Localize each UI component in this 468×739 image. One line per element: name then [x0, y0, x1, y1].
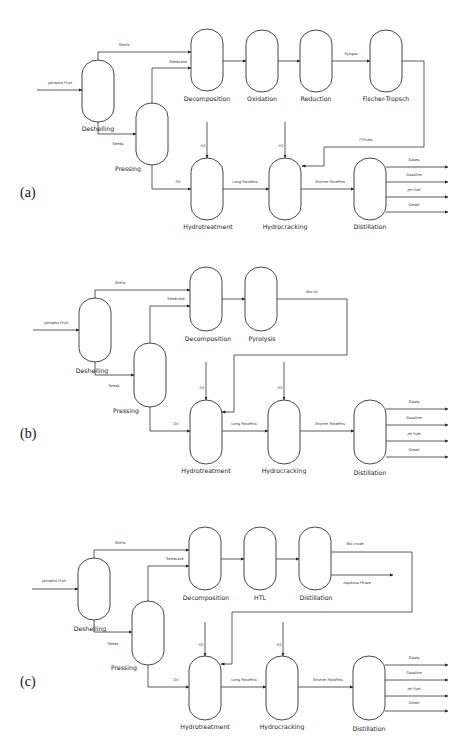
product-label-gases: Gases: [409, 400, 420, 404]
seedcake-label: Seedcake: [166, 557, 184, 561]
seedcake-label: Seedcake: [169, 60, 187, 64]
decomposition-label: Decomposition: [185, 335, 231, 343]
seeds-label: Seeds: [113, 142, 124, 146]
bio-oil-stream: [222, 299, 347, 412]
ft-fuels-label: FTFuels: [359, 138, 373, 142]
distillation-1-label: Distillation: [300, 594, 333, 601]
product-label-jet-fuel: Jet Fuel: [406, 432, 420, 436]
decomposition-label: Decomposition: [184, 95, 230, 103]
long-paraffins-label: Long Paraffins: [231, 678, 256, 682]
hydrotreatment-label: Hydrotreatment: [183, 223, 233, 231]
shells-label: Shells: [115, 541, 126, 545]
panel-label-b: (b): [20, 426, 37, 442]
fischer-tropsch-label: Fischer-Tropsch: [363, 95, 410, 103]
distillation-label: Distillation: [354, 469, 387, 476]
oil-label: Oil: [174, 678, 179, 682]
shorter-paraffins-label: Shorter Paraffins: [315, 422, 345, 426]
panel-label-a: (a): [20, 185, 36, 201]
product-label-diesel: Diesel: [408, 203, 419, 207]
distillation-label: Distillation: [353, 725, 386, 732]
pressing-label: Pressing: [111, 664, 137, 672]
panel-a: (a) Jatropha Fruit Deshelling Shells See…: [20, 29, 448, 231]
product-label-gases: Gases: [409, 656, 420, 660]
deshelling-label: Deshelling: [76, 367, 109, 375]
h2-label-2: H2: [278, 386, 283, 390]
product-label-gasoline: Gasoline: [406, 173, 422, 177]
hydrocracking-vessel: [266, 656, 298, 720]
oil-label: Oil: [176, 180, 181, 184]
product-label-gasoline: Gasoline: [406, 416, 422, 420]
deshelling-vessel: [79, 298, 111, 362]
hydrocracking-vessel: [268, 400, 300, 464]
oil-stream: [152, 165, 191, 189]
distillation-1-vessel: [299, 527, 331, 590]
syngas-label: Syngas: [344, 52, 357, 56]
shells-label: Shells: [115, 281, 126, 285]
shorter-paraffins-label: Shorter Paraffins: [315, 180, 345, 184]
decomposition-vessel: [189, 527, 221, 590]
htl-label: HTL: [254, 594, 266, 601]
pressing-vessel: [132, 601, 164, 665]
seeds-label: Seeds: [108, 642, 119, 646]
distillation-vessel: [354, 400, 386, 464]
feed-label: Jatropha Fruit: [47, 81, 73, 85]
process-flow-diagram: (a) Jatropha Fruit Deshelling Shells See…: [0, 0, 468, 739]
htl-vessel: [244, 527, 276, 590]
h2-label-1: H2: [200, 386, 205, 390]
hydrotreatment-vessel: [191, 158, 223, 220]
long-paraffins-label: Long Paraffins: [232, 180, 257, 184]
shells-stream: [98, 52, 191, 60]
product-label-diesel: Diesel: [408, 701, 419, 705]
pyrolysis-label: Pyrolysis: [248, 335, 275, 343]
reduction-vessel: [300, 30, 332, 92]
product-label-diesel: Diesel: [408, 448, 419, 452]
panel-c: (c) Jatropha Fruit Deshelling Shells See…: [20, 527, 448, 732]
pressing-label: Pressing: [113, 407, 139, 415]
hydrocracking-label: Hydrocracking: [263, 223, 308, 231]
hydrocracking-label: Hydrocracking: [260, 723, 305, 731]
h2-label-2: H2: [277, 643, 282, 647]
h2-label-2: H2: [279, 144, 284, 148]
feed-label: Jatropha Fruit: [41, 579, 67, 583]
seeds-label: Seeds: [109, 384, 120, 388]
pressing-vessel: [136, 103, 168, 165]
oil-label: Oil: [174, 422, 179, 426]
shorter-paraffins-label: Shorter Paraffins: [313, 678, 343, 682]
panel-b: (b) Jatropha Fruit Deshelling Shells See…: [20, 267, 448, 476]
bio-crude-label: Bio-crude: [346, 542, 364, 546]
distillation-vessel: [353, 656, 385, 720]
product-label-jet-fuel: Jet Fuel: [406, 687, 420, 691]
distillation-label: Distillation: [354, 223, 387, 230]
deshelling-vessel: [82, 60, 114, 122]
h2-label-1: H2: [201, 144, 206, 148]
panel-label-c: (c): [20, 674, 36, 690]
hydrotreatment-label: Hydrotreatment: [181, 467, 231, 475]
h2-label-1: H2: [199, 643, 204, 647]
seedcake-label: Seedcake: [167, 297, 185, 301]
shells-label: Shells: [119, 43, 130, 47]
feed-label: Jatropha Fruit: [43, 321, 69, 325]
hydrocracking-vessel: [269, 158, 301, 220]
decomposition-vessel: [191, 29, 223, 91]
hydrotreatment-vessel: [190, 400, 222, 464]
pyrolysis-vessel: [245, 267, 277, 331]
hydrocracking-label: Hydrocracking: [262, 467, 307, 475]
pressing-label: Pressing: [115, 165, 141, 173]
long-paraffins-label: Long Paraffins: [231, 422, 256, 426]
oil-stream: [150, 407, 190, 431]
hydrotreatment-label: Hydrotreatment: [180, 723, 230, 731]
oil-stream: [148, 665, 189, 687]
fischer-tropsch-vessel: [370, 30, 402, 92]
aqueous-phase-label: Aqueous Phase: [343, 581, 371, 585]
bio-oil-label: Bio-oil: [306, 290, 317, 294]
oxidation-label: Oxidation: [247, 95, 277, 102]
hydrotreatment-vessel: [189, 656, 221, 720]
oxidation-vessel: [246, 30, 278, 92]
product-label-gasoline: Gasoline: [406, 671, 422, 675]
product-label-jet-fuel: Jet Fuel: [406, 188, 420, 192]
deshelling-vessel: [78, 558, 110, 620]
distillation-vessel: [354, 158, 386, 220]
pressing-vessel: [134, 343, 166, 407]
product-label-gases: Gases: [409, 158, 420, 162]
reduction-label: Reduction: [301, 95, 332, 102]
